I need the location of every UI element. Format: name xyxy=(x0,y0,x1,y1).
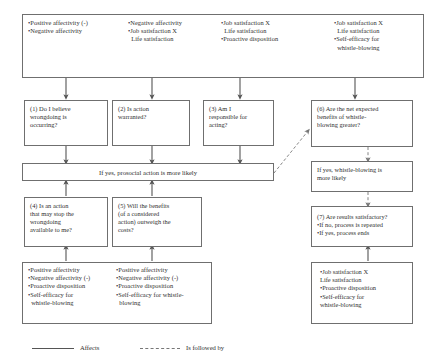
question-line: •If yes, process ends xyxy=(317,229,408,237)
antecedent-cell-4: •Job satisfaction X Life satisfaction •S… xyxy=(334,19,424,52)
antecedent-line: •Proactive disposition xyxy=(320,284,408,292)
question-line: wrongdoing is xyxy=(30,113,103,121)
antecedent-line: •Self-efficacy for whistle- xyxy=(116,291,211,299)
antecedent-line: Life satisfaction xyxy=(334,27,424,35)
question-line: (6) Are the net expected xyxy=(317,105,408,113)
question-7-text: (7) Are results satisfactory? •If no, pr… xyxy=(312,207,412,246)
question-box-1: (1) Do I believe wrongdoing is occurring… xyxy=(24,100,108,146)
lower-antecedent-cell-1: •Positive affectivity •Negative affectiv… xyxy=(28,266,116,307)
legend-followed-by-line xyxy=(140,348,180,349)
question-line: (of a considered xyxy=(118,210,197,218)
legend-affects-line xyxy=(32,348,74,349)
question-box-5: (5) Will the benefits (of a considered a… xyxy=(112,197,202,247)
antecedent-line: •Job satisfaction X xyxy=(128,27,220,35)
antecedent-line: •Job satisfaction X xyxy=(334,19,424,27)
question-1-text: (1) Do I believe wrongdoing is occurring… xyxy=(25,101,107,145)
question-line: (4) Is an action xyxy=(30,202,103,210)
antecedent-line: •Proactive disposition xyxy=(116,282,211,290)
question-line: action) outweigh the xyxy=(118,218,197,226)
antecedent-line: •Negative affectivity (-) xyxy=(116,274,211,282)
question-line: wrongdoing xyxy=(30,218,103,226)
question-line: that may stop the xyxy=(30,210,103,218)
antecedent-cell-1: •Positive affectivity (-) •Negative affe… xyxy=(28,19,125,35)
question-line: (2) Is action xyxy=(118,105,185,113)
question-4-text: (4) Is an action that may stop the wrong… xyxy=(25,198,107,246)
question-box-3: (3) Am I responsible for acting? xyxy=(203,100,274,146)
question-box-4: (4) Is an action that may stop the wrong… xyxy=(24,197,108,247)
whistle-blowing-band-text: If yes, whistle-blowing is more likely xyxy=(312,162,412,191)
antecedent-line: •Negative affectivity xyxy=(28,27,125,35)
whistle-blowing-process-diagram: •Positive affectivity (-) •Negative affe… xyxy=(0,0,438,364)
antecedent-line: •Proactive disposition xyxy=(221,35,314,43)
whistle-blowing-band: If yes, whistle-blowing is more likely xyxy=(311,161,413,192)
antecedent-line: whistle-blowing xyxy=(28,299,116,307)
antecedent-line: •Job satisfaction X xyxy=(221,19,314,27)
question-line: (3) Am I xyxy=(209,105,269,113)
antecedent-line: •Positive affectivity (-) xyxy=(28,19,125,27)
question-line: blowing greater? xyxy=(317,121,408,129)
question-line: available to me? xyxy=(30,226,103,234)
arrow-prosocial-to-q6 xyxy=(274,131,308,173)
question-5-text: (5) Will the benefits (of a considered a… xyxy=(113,198,201,246)
antecedent-line: Life satisfaction xyxy=(320,276,408,284)
antecedent-line: whistle-blowing xyxy=(320,301,408,309)
question-box-2: (2) Is action warranted? xyxy=(112,100,190,146)
question-line: (7) Are results satisfactory? xyxy=(317,213,408,221)
antecedent-line: •Negative affectivity xyxy=(128,19,220,27)
antecedent-line: •Positive affectivity xyxy=(116,266,211,274)
antecedent-line: •Proactive disposition xyxy=(28,282,116,290)
band-line: more likely xyxy=(317,174,408,182)
question-box-7: (7) Are results satisfactory? •If no, pr… xyxy=(311,206,413,247)
prosocial-action-label: If yes, prosocial action is more likely xyxy=(23,164,273,180)
antecedent-line: •Positive affectivity xyxy=(28,266,116,274)
legend-followed-by-label: Is followed by xyxy=(186,344,224,351)
lower-antecedent-cell-2: •Positive affectivity •Negative affectiv… xyxy=(116,266,211,307)
antecedent-cell-3: •Job satisfaction X Life satisfaction •P… xyxy=(221,19,314,44)
question-line: costs? xyxy=(118,226,197,234)
question-line: •If no, process is repeated xyxy=(317,221,408,229)
prosocial-action-band: If yes, prosocial action is more likely xyxy=(22,163,274,181)
question-line: (5) Will the benefits xyxy=(118,202,197,210)
question-line: warranted? xyxy=(118,113,185,121)
question-6-text: (6) Are the net expected benefits of whi… xyxy=(312,101,412,146)
antecedent-line: •Self-efficacy for xyxy=(334,35,424,43)
right-antecedent-box: •Job satisfaction X Life satisfaction •P… xyxy=(311,262,413,324)
antecedent-line: •Self-efficacy for xyxy=(320,293,408,301)
question-3-text: (3) Am I responsible for acting? xyxy=(204,101,273,145)
antecedent-line: Life satisfaction xyxy=(128,35,220,43)
antecedent-line: •Job satisfaction X xyxy=(320,268,408,276)
question-2-text: (2) Is action warranted? xyxy=(113,101,189,145)
band-line: If yes, whistle-blowing is xyxy=(317,166,408,174)
question-line: occurring? xyxy=(30,121,103,129)
question-line: acting? xyxy=(209,121,269,129)
antecedent-line: whistle-blowing xyxy=(334,44,424,52)
antecedent-line: •Self-efficacy for xyxy=(28,291,116,299)
question-line: (1) Do I believe xyxy=(30,105,103,113)
question-line: responsible for xyxy=(209,113,269,121)
lower-antecedents-box: •Positive affectivity •Negative affectiv… xyxy=(22,262,212,324)
right-antecedent-text: •Job satisfaction X Life satisfaction •P… xyxy=(312,263,412,323)
antecedent-line: Life satisfaction xyxy=(221,27,314,35)
question-line: benefits of whistle- xyxy=(317,113,408,121)
antecedent-line: •Negative affectivity (-) xyxy=(28,274,116,282)
legend-affects-label: Affects xyxy=(80,344,99,351)
antecedent-line: blowing xyxy=(116,299,211,307)
antecedents-box: •Positive affectivity (-) •Negative affe… xyxy=(22,14,424,78)
question-box-6: (6) Are the net expected benefits of whi… xyxy=(311,100,413,147)
antecedent-cell-2: •Negative affectivity •Job satisfaction … xyxy=(128,19,220,44)
